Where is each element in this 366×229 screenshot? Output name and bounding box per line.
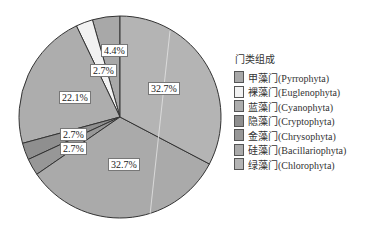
legend-title: 门类组成: [235, 54, 346, 66]
legend-swatch: [234, 115, 244, 127]
data-label-cryptophyta: 2.7%: [60, 128, 87, 141]
legend-item-cryptophyta: 隐藻门(Cryptophyta): [234, 114, 346, 129]
legend-item-chlorophyta: 绿藻门(Chlorophyta): [234, 157, 346, 172]
legend-label: 蓝藻门(Cyanophyta): [248, 99, 333, 114]
legend-label: 硅藻门(Bacillariophyta): [248, 142, 346, 157]
legend-swatch: [234, 100, 244, 112]
legend-swatch: [234, 129, 244, 141]
data-label-chlorophyta: 32.7%: [148, 82, 180, 95]
legend-item-pyrrophyta: 甲藻门(Pyrrophyta): [234, 70, 346, 85]
legend-swatch: [234, 71, 244, 83]
legend-swatch: [234, 158, 244, 170]
data-label-cyanophyta: 22.1%: [59, 91, 91, 104]
legend-item-bacillariophyta: 硅藻门(Bacillariophyta): [234, 143, 346, 158]
data-label-euglenophyta: 2.7%: [90, 64, 117, 77]
pie-chart: [0, 0, 230, 229]
legend-label: 甲藻门(Pyrrophyta): [248, 70, 329, 85]
legend: 门类组成 甲藻门(Pyrrophyta) 裸藻门(Euglenophyta) 蓝…: [234, 54, 346, 172]
data-label-bacillariophyta: 32.7%: [108, 158, 140, 171]
legend-swatch: [234, 86, 244, 98]
legend-label: 裸藻门(Euglenophyta): [248, 84, 340, 99]
legend-item-chrysophyta: 金藻门(Chrysophyta): [234, 128, 346, 143]
legend-swatch: [234, 144, 244, 156]
legend-item-euglenophyta: 裸藻门(Euglenophyta): [234, 85, 346, 100]
data-label-chrysophyta: 2.7%: [60, 142, 87, 155]
legend-label: 隐藻门(Cryptophyta): [248, 113, 335, 128]
legend-label: 金藻门(Chrysophyta): [248, 128, 336, 143]
data-label-pyrrophyta: 4.4%: [101, 44, 128, 57]
legend-label: 绿藻门(Chlorophyta): [248, 157, 335, 172]
legend-item-cyanophyta: 蓝藻门(Cyanophyta): [234, 99, 346, 114]
